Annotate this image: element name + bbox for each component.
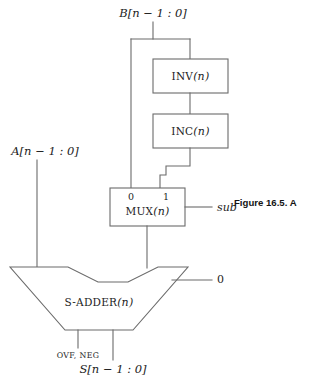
block-label-adder-name: S-ADDER (65, 296, 118, 308)
block-label-inv: INV(n) (172, 71, 210, 82)
diagram-wires (0, 0, 318, 379)
block-label-inv-arg: (n) (193, 70, 209, 83)
mux-select-label-1: 1 (163, 192, 169, 202)
block-label-inc-arg: (n) (193, 125, 209, 138)
label-carry-in: 0 (217, 274, 224, 285)
block-label-adder-arg: (n) (117, 296, 133, 309)
wire-inc-to-mux1 (160, 148, 190, 188)
figure-caption: Figure 16.5. A (234, 197, 297, 208)
mux-select-label-0: 0 (128, 192, 134, 202)
label-input-b: B[n − 1 : 0] (119, 8, 187, 20)
block-label-adder: S-ADDER(n) (65, 297, 134, 308)
block-label-mux-arg: (n) (153, 205, 169, 218)
figure-container: B[n − 1 : 0] INV(n) INC(n) 0 1 MUX(n) su… (0, 0, 318, 379)
block-label-inc-name: INC (171, 125, 193, 137)
label-output-s: S[n − 1 : 0] (79, 364, 146, 376)
label-input-a: A[n − 1 : 0] (11, 146, 78, 158)
block-label-inv-name: INV (172, 70, 194, 82)
label-flags: OVF, NEG (57, 352, 100, 360)
block-label-inc: INC(n) (171, 126, 209, 137)
block-label-mux-name: MUX (126, 205, 154, 217)
block-label-mux: MUX(n) (126, 206, 170, 217)
